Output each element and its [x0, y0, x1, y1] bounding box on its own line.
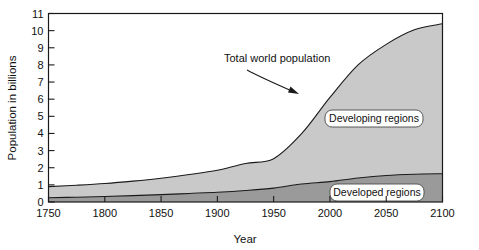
x-tick-label: 2050 [374, 207, 398, 219]
y-tick-label: 4 [37, 127, 43, 139]
y-tick-label: 7 [37, 76, 43, 88]
x-tick-label: 2000 [318, 207, 342, 219]
legend-developing-label: Developing regions [329, 112, 419, 124]
annotation-total-world-population: Total world population [224, 52, 330, 64]
y-tick-label: 8 [37, 59, 43, 71]
y-tick-label: 10 [31, 25, 43, 37]
y-tick-label: 6 [37, 93, 43, 105]
y-tick-label: 5 [37, 110, 43, 122]
x-tick-label: 1750 [36, 207, 60, 219]
x-tick-label: 1800 [93, 207, 117, 219]
chart-canvas: Population in billions Year Total world … [0, 0, 479, 250]
x-axis-title: Year [233, 233, 256, 245]
legend-developed-regions: Developed regions [330, 184, 424, 201]
x-tick-label: 1900 [205, 207, 229, 219]
population-chart: Population in billions Year Total world … [0, 0, 479, 250]
y-tick-label: 11 [32, 8, 43, 20]
legend-developed-label: Developed regions [333, 186, 421, 198]
y-tick-label: 3 [37, 145, 43, 157]
y-tick-label: 9 [37, 42, 43, 54]
x-tick-label: 2100 [430, 207, 454, 219]
y-tick-label: 1 [37, 179, 43, 191]
x-tick-label: 1850 [149, 207, 173, 219]
y-tick-label: 2 [37, 162, 43, 174]
y-axis-title: Population in billions [6, 55, 18, 160]
x-tick-label: 1950 [261, 207, 285, 219]
legend-developing-regions: Developing regions [325, 110, 423, 127]
